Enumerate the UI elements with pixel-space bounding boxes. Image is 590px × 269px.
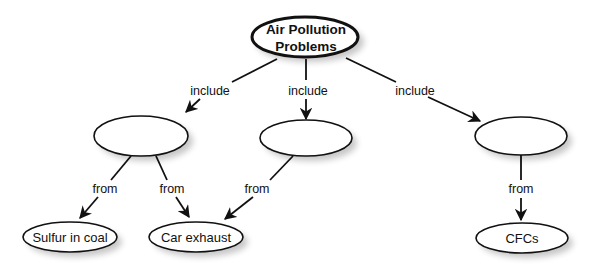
concept-map: include include include from from from f… — [0, 0, 590, 269]
root-label-line1: Air Pollution — [266, 22, 346, 37]
empty-node-right — [475, 117, 572, 160]
edge-n1-s1: from — [80, 156, 131, 218]
edge-label-from-4: from — [509, 182, 534, 196]
edge-root-n1: include — [186, 59, 277, 112]
node-cfcs: CFCs — [476, 223, 573, 258]
edge-label-include-1: include — [190, 84, 230, 98]
edge-n2-s2: from — [225, 156, 293, 219]
node-car-exhaust: Car exhaust — [149, 222, 248, 257]
edge-root-n3: include — [346, 58, 480, 121]
edge-label-from-2: from — [160, 182, 185, 196]
empty-node-left — [94, 116, 193, 161]
edge-label-include-2: include — [288, 84, 328, 98]
edge-label-from-1: from — [93, 182, 118, 196]
node-label-car-exhaust: Car exhaust — [161, 230, 231, 245]
empty-node-middle — [260, 120, 357, 161]
root-node-air-pollution-problems: Air Pollution Problems — [252, 17, 364, 62]
edge-root-n2: include — [288, 59, 328, 119]
node-sulfur-in-coal: Sulfur in coal — [23, 222, 122, 257]
edge-n1-s2: from — [156, 156, 189, 217]
edge-label-from-3: from — [245, 182, 270, 196]
edge-n3-s3: from — [509, 155, 534, 220]
edge-label-include-3: include — [395, 84, 435, 98]
node-label-sulfur-in-coal: Sulfur in coal — [32, 230, 107, 245]
node-label-cfcs: CFCs — [505, 231, 539, 246]
root-label-line2: Problems — [275, 39, 337, 54]
